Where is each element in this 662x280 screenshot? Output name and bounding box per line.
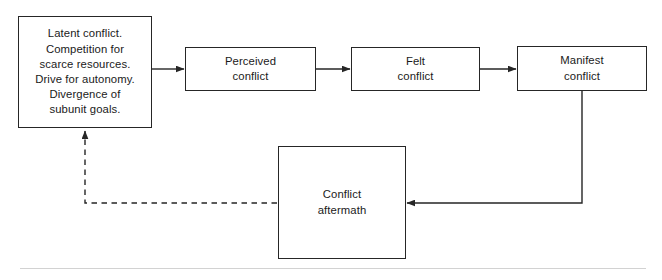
node-latent-conflict-label: Latent conflict. Competition for scarce …	[32, 26, 138, 117]
node-felt-conflict-label: Felt conflict	[395, 54, 437, 84]
node-conflict-aftermath[interactable]: Conflict aftermath	[278, 146, 406, 259]
node-manifest-conflict-label: Manifest conflict	[557, 53, 607, 83]
node-manifest-conflict[interactable]: Manifest conflict	[517, 46, 647, 91]
edge-manifest-to-aftermath	[407, 91, 582, 203]
conflict-process-diagram: Latent conflict. Competition for scarce …	[0, 0, 662, 280]
edge-aftermath-to-latent	[85, 131, 277, 203]
node-latent-conflict[interactable]: Latent conflict. Competition for scarce …	[18, 16, 152, 128]
node-perceived-conflict[interactable]: Perceived conflict	[185, 47, 316, 91]
node-perceived-conflict-label: Perceived conflict	[222, 54, 279, 84]
node-felt-conflict[interactable]: Felt conflict	[351, 47, 480, 91]
footer-divider	[20, 268, 646, 269]
node-conflict-aftermath-label: Conflict aftermath	[315, 187, 370, 217]
